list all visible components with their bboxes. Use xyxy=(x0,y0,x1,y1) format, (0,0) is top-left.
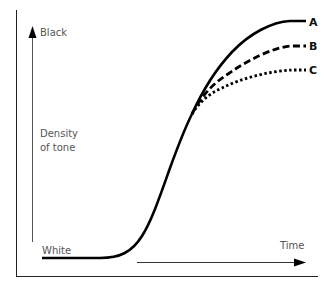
time-axis-arrow xyxy=(137,259,306,267)
arrow-up-icon xyxy=(29,26,37,38)
curve-label-a: A xyxy=(309,16,318,29)
curve-c xyxy=(192,70,306,114)
curve-label-c: C xyxy=(309,64,317,77)
label-of-tone: of tone xyxy=(40,142,75,153)
density-time-diagram: A B C Black Density of tone White Time xyxy=(0,0,328,284)
curve-a xyxy=(192,21,306,114)
label-time: Time xyxy=(279,240,304,251)
arrow-right-icon xyxy=(294,259,306,267)
label-black: Black xyxy=(40,27,67,38)
density-axis-arrow xyxy=(29,26,37,242)
label-white: White xyxy=(42,245,71,256)
curve-label-b: B xyxy=(309,40,317,53)
label-density: Density xyxy=(40,128,78,139)
